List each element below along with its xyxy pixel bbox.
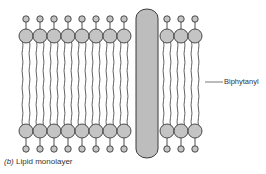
glycerol-head-bottom xyxy=(61,124,75,138)
glycerol-head-top xyxy=(75,29,89,43)
hydrocarbon-chain xyxy=(92,41,93,126)
hydrocarbon-chain xyxy=(50,41,51,126)
phosphate-group-bottom xyxy=(65,146,71,152)
lipid-monolayer-diagram xyxy=(0,0,266,174)
phosphate-group-bottom xyxy=(37,146,43,152)
phosphate-group-bottom xyxy=(51,146,57,152)
hydrocarbon-chain xyxy=(127,41,128,126)
phosphate-group-bottom xyxy=(121,146,127,152)
hydrocarbon-chain xyxy=(170,41,171,126)
hydrocarbon-chain xyxy=(43,41,44,126)
hydrocarbon-chain xyxy=(29,41,30,126)
figure-caption: (b) Lipid monolayer xyxy=(4,157,73,166)
phosphate-group-top xyxy=(107,16,113,22)
caption-prefix: (b) xyxy=(4,157,14,166)
phosphate-group-top xyxy=(178,16,184,22)
glycerol-head-top xyxy=(174,29,188,43)
caption-text: Lipid monolayer xyxy=(16,157,72,166)
phosphate-group-top xyxy=(37,16,43,22)
glycerol-head-top xyxy=(160,29,174,43)
hydrocarbon-chain xyxy=(71,41,72,126)
glycerol-head-bottom xyxy=(174,124,188,138)
glycerol-head-bottom xyxy=(160,124,174,138)
phosphate-group-bottom xyxy=(79,146,85,152)
hydrocarbon-chain xyxy=(191,41,192,126)
hydrocarbon-chain xyxy=(106,41,107,126)
hydrocarbon-chain xyxy=(22,41,23,126)
phosphate-group-top xyxy=(79,16,85,22)
glycerol-head-bottom xyxy=(89,124,103,138)
phosphate-group-bottom xyxy=(178,146,184,152)
glycerol-head-top xyxy=(19,29,33,43)
glycerol-head-bottom xyxy=(19,124,33,138)
glycerol-head-bottom xyxy=(33,124,47,138)
hydrocarbon-chain xyxy=(64,41,65,126)
hydrocarbon-chain xyxy=(184,41,185,126)
glycerol-head-top xyxy=(47,29,61,43)
hydrocarbon-chain xyxy=(57,41,58,126)
glycerol-head-top xyxy=(89,29,103,43)
phosphate-group-bottom xyxy=(23,146,29,152)
phosphate-group-bottom xyxy=(192,146,198,152)
hydrocarbon-chain xyxy=(163,41,164,126)
phosphate-group-bottom xyxy=(93,146,99,152)
biphytanyl-chains xyxy=(22,41,199,126)
glycerol-head-top xyxy=(61,29,75,43)
hydrocarbon-chain xyxy=(198,41,199,126)
glycerol-head-top xyxy=(188,29,202,43)
phosphate-group-top xyxy=(23,16,29,22)
phosphate-group-top xyxy=(93,16,99,22)
hydrocarbon-chain xyxy=(177,41,178,126)
phosphate-group-top xyxy=(192,16,198,22)
hydrocarbon-chain xyxy=(120,41,121,126)
glycerol-head-bottom xyxy=(188,124,202,138)
phosphate-group-bottom xyxy=(164,146,170,152)
glycerol-head-bottom xyxy=(103,124,117,138)
glycerol-head-top xyxy=(33,29,47,43)
hydrocarbon-chain xyxy=(99,41,100,126)
phosphate-group-top xyxy=(121,16,127,22)
hydrocarbon-chain xyxy=(36,41,37,126)
hydrocarbon-chain xyxy=(113,41,114,126)
phosphate-group-top xyxy=(65,16,71,22)
biphytanyl-label: Biphytanyl xyxy=(224,77,259,86)
phosphate-group-top xyxy=(164,16,170,22)
phosphate-group-top xyxy=(51,16,57,22)
glycerol-head-top xyxy=(103,29,117,43)
phosphate-group-bottom xyxy=(107,146,113,152)
lipid-head-groups xyxy=(19,16,202,152)
transmembrane-bar xyxy=(136,9,158,158)
glycerol-head-bottom xyxy=(47,124,61,138)
hydrocarbon-chain xyxy=(78,41,79,126)
glycerol-head-bottom xyxy=(75,124,89,138)
glycerol-head-top xyxy=(117,29,131,43)
hydrocarbon-chain xyxy=(85,41,86,126)
glycerol-head-bottom xyxy=(117,124,131,138)
